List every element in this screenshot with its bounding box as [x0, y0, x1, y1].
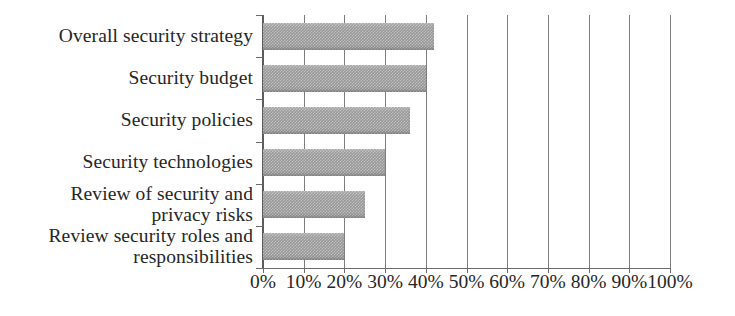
x-tick-label: 100% [647, 272, 693, 292]
plot-area [263, 15, 670, 268]
x-tick-label: 20% [327, 272, 363, 292]
category-label: Review security roles and responsibiliti… [14, 226, 260, 268]
bar [263, 23, 434, 50]
bar [263, 191, 365, 218]
bar-row [263, 142, 670, 184]
category-label: Overall security strategy [14, 15, 260, 57]
bar-row [263, 15, 670, 57]
bar [263, 233, 344, 260]
gridline [670, 15, 671, 268]
x-tick-label: 80% [571, 272, 607, 292]
category-label: Review of security and privacy risks [14, 184, 260, 226]
category-tick-mark [256, 268, 263, 269]
x-tick-label: 50% [449, 272, 485, 292]
category-tick-mark [256, 142, 263, 143]
bar [263, 149, 385, 176]
bar [263, 107, 410, 134]
x-tick-label: 70% [530, 272, 566, 292]
x-tick-label: 10% [286, 272, 322, 292]
x-tick-label: 60% [489, 272, 525, 292]
category-tick-mark [256, 99, 263, 100]
bar-row [263, 226, 670, 268]
category-label: Security policies [14, 99, 260, 141]
category-axis-labels: Overall security strategy Security budge… [14, 15, 260, 268]
category-label: Security budget [14, 57, 260, 99]
category-tick-mark [256, 184, 263, 185]
x-tick-label: 40% [408, 272, 444, 292]
bar-series [263, 15, 670, 268]
bar [263, 65, 426, 92]
category-tick-mark [256, 226, 263, 227]
bar-row [263, 99, 670, 141]
category-tick-mark [256, 57, 263, 58]
x-tick-label: 90% [611, 272, 647, 292]
bar-row [263, 57, 670, 99]
category-tick-mark [256, 15, 263, 16]
x-tick-label: 0% [250, 272, 276, 292]
bar-row [263, 184, 670, 226]
category-label: Security technologies [14, 142, 260, 184]
bar-chart: Overall security strategy Security budge… [0, 0, 735, 316]
x-tick-label: 30% [367, 272, 403, 292]
x-axis-tick-labels: 0%10%20%30%40%50%60%70%80%90%100% [263, 272, 670, 302]
